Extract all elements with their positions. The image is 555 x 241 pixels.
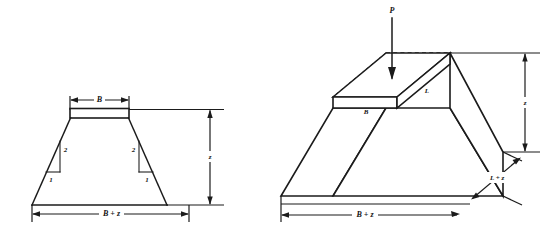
left-depth-arrow-bottom: [207, 197, 212, 206]
spread-width-arrow-right: [451, 211, 460, 217]
spread-width-label: B + z: [355, 210, 374, 219]
left-top-width-label: B: [96, 95, 103, 104]
left-bottom-arrow-left: [32, 211, 40, 217]
spread-length-label: L + z: [489, 174, 505, 182]
left-top-dim-arrow-right: [121, 97, 129, 103]
spread-width-arrow-left: [281, 212, 289, 218]
left-slope-horizontal-label: 1: [49, 176, 53, 184]
left-bottom-dimension: B + z: [32, 205, 189, 222]
footing-width-label: B: [363, 108, 369, 116]
left-footing-slab: [70, 109, 129, 119]
load-arrow-group: P: [388, 6, 396, 80]
slab-front-face: [333, 97, 397, 108]
left-bottom-arrow-right: [181, 211, 189, 217]
left-slope-vertical-label: 2: [63, 146, 68, 154]
right-slope-horizontal-label: 1: [145, 176, 149, 184]
right-depth-label: z: [523, 99, 527, 107]
spread-width-dimension: B + z: [281, 196, 470, 222]
spread-length-ext-bottom: [503, 196, 522, 205]
right-depth-arrow-bottom: [522, 144, 527, 153]
figure-container: B 2 1 2 1: [0, 0, 555, 241]
right-isometric-view: P B L z: [281, 6, 540, 222]
left-top-dim-arrow-left: [70, 97, 78, 103]
left-cross-section-view: B 2 1 2 1: [32, 95, 224, 222]
left-depth-arrow-top: [207, 110, 212, 119]
load-label: P: [390, 6, 395, 15]
left-depth-label: z: [208, 153, 212, 161]
footing-length-label: L: [424, 87, 429, 95]
right-depth-arrow-top: [522, 53, 527, 62]
left-bottom-width-label: B + z: [102, 209, 121, 218]
load-distribution-diagram: B 2 1 2 1: [0, 0, 555, 241]
left-spread-line-left: [32, 118, 71, 205]
left-depth-dimension: z: [129, 110, 224, 206]
left-spread-line-right: [129, 118, 168, 205]
right-slope-vertical-label: 2: [131, 146, 136, 154]
